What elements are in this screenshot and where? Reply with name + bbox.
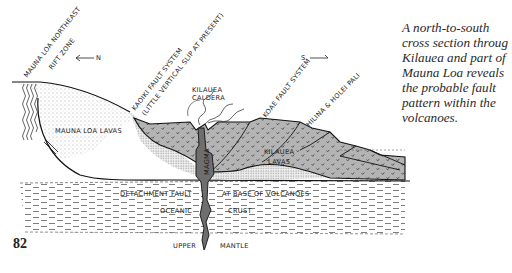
label-mantle: MANTLE <box>220 242 249 250</box>
label-upper: UPPER <box>173 242 196 250</box>
label-kilauea-lavas-2: LAVAS <box>268 158 290 166</box>
label-north: N <box>96 54 101 62</box>
north-arrow <box>76 55 94 61</box>
label-caldera-1: KILAUEA <box>192 86 222 94</box>
rift-zone-dikes <box>23 84 38 140</box>
south-arrow <box>310 55 328 58</box>
figure-caption: A north-to-south cross section throug Ki… <box>402 20 512 125</box>
oceanic-crust-layer <box>20 180 405 234</box>
caption-line: Kilauea and part of <box>402 50 512 65</box>
label-koae: KOAE FAULT SYSTEM <box>261 57 312 119</box>
caption-line: Mauna Loa reveals <box>402 65 512 80</box>
caption-line: volcanoes. <box>402 110 512 125</box>
page-number: 82 <box>13 236 27 252</box>
caption-line: A north-to-south <box>402 20 512 35</box>
label-mauna-loa-lavas: MAUNA LOA LAVAS <box>55 127 122 135</box>
label-crust: CRUST <box>228 207 252 215</box>
label-magma: MAGMA <box>203 148 211 175</box>
label-oceanic: OCEANIC <box>160 207 192 215</box>
label-detachment-right: AT BASE OF VOLCANOES <box>222 190 310 198</box>
label-hilina: HILINA & HOLEI PALI <box>305 71 362 128</box>
caption-line: cross section throug <box>402 35 512 50</box>
label-caldera-2: CALDERA <box>192 94 225 102</box>
caption-line: the probable fault <box>402 80 512 95</box>
label-detachment-left: DETACHMENT FAULT <box>120 190 192 198</box>
caption-line: pattern within the <box>402 95 512 110</box>
label-kilauea-lavas-1: KILAUEA <box>264 148 294 156</box>
